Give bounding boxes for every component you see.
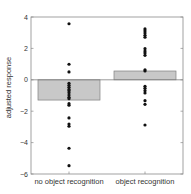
y-tick-label: 0 <box>24 76 28 83</box>
y-axis-label: adjusted response <box>4 57 13 118</box>
data-point <box>67 147 70 150</box>
data-point <box>67 97 70 100</box>
data-point <box>143 91 146 94</box>
data-point <box>67 164 70 167</box>
bars-layer <box>38 71 176 100</box>
bar-chart-with-points: −6−4−2024 no object recognitionobject re… <box>0 0 191 194</box>
data-point <box>143 123 146 126</box>
data-point <box>143 99 146 102</box>
y-tick-label: 4 <box>24 14 28 21</box>
x-tick-label: object recognition <box>116 177 175 186</box>
y-tick-label: −4 <box>20 139 28 146</box>
y-tick-label: −6 <box>20 171 28 178</box>
data-point <box>143 54 146 57</box>
y-tick-label: 2 <box>24 45 28 52</box>
data-point <box>143 69 146 72</box>
data-point <box>67 70 70 73</box>
data-point <box>67 22 70 25</box>
y-tick-label: −2 <box>20 108 28 115</box>
data-point <box>143 36 146 39</box>
data-point <box>67 116 70 119</box>
x-tick-label: no object recognition <box>34 177 103 186</box>
data-point <box>67 104 70 107</box>
data-point <box>67 125 70 128</box>
data-point <box>143 103 146 106</box>
data-point <box>67 63 70 66</box>
